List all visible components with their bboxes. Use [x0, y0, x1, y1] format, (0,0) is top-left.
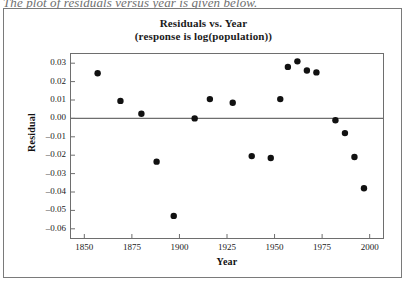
x-tick-label: 1925 — [207, 242, 247, 252]
data-point — [342, 130, 348, 136]
x-tick-label: 1900 — [159, 242, 199, 252]
y-tick-label: –0.01 — [32, 131, 66, 141]
y-tick-label: 0.02 — [32, 76, 66, 86]
data-point — [361, 185, 367, 191]
plot-area — [70, 53, 384, 239]
figure-frame: Residuals vs. Year (response is log(popu… — [3, 8, 402, 278]
y-tick-label: 0.01 — [32, 94, 66, 104]
data-point — [268, 155, 274, 161]
data-point — [153, 158, 159, 164]
y-tick-label: 0.00 — [32, 112, 66, 122]
data-point — [277, 96, 283, 102]
x-tick-label: 1850 — [64, 242, 104, 252]
y-tick-label: 0.03 — [32, 57, 66, 67]
x-tick-label: 1975 — [302, 242, 342, 252]
data-point — [117, 98, 123, 104]
x-tick-label: 1875 — [112, 242, 152, 252]
x-tick-label: 1950 — [255, 242, 295, 252]
data-point — [249, 153, 255, 159]
y-tick-label: –0.02 — [32, 149, 66, 159]
data-point — [304, 67, 310, 73]
data-point — [332, 117, 338, 123]
data-point — [171, 213, 177, 219]
data-point — [294, 58, 300, 64]
data-point — [191, 115, 197, 121]
x-axis-tick-labels: 1850187519001925195019752000 — [4, 242, 403, 256]
y-axis-tick-labels: 0.030.020.010.00–0.01–0.02–0.03–0.04–0.0… — [26, 9, 66, 279]
scatter-plot-canvas — [71, 54, 383, 238]
data-point — [207, 96, 213, 102]
data-point — [285, 64, 291, 70]
x-tick-label: 2000 — [350, 242, 390, 252]
data-point — [351, 154, 357, 160]
data-point — [313, 69, 319, 75]
y-tick-label: –0.06 — [32, 223, 66, 233]
data-point — [94, 70, 100, 76]
y-tick-label: –0.03 — [32, 168, 66, 178]
y-tick-label: –0.04 — [32, 186, 66, 196]
x-axis-title: Year — [70, 256, 384, 267]
data-point — [138, 111, 144, 117]
data-point — [230, 100, 236, 106]
y-tick-label: –0.05 — [32, 204, 66, 214]
